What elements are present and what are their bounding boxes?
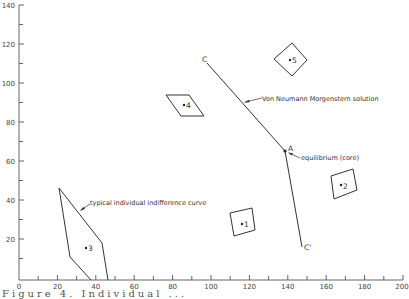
point-2-marker — [340, 184, 342, 186]
y-tick-label: 60 — [6, 158, 15, 166]
y-tick-label: 140 — [2, 2, 15, 10]
point-5-marker — [289, 59, 291, 61]
vnm-label: Von Neumann Morgenstern solution — [262, 95, 379, 103]
y-tick-label: 100 — [2, 80, 15, 88]
vnm-arrowhead-icon — [244, 100, 250, 103]
axes — [19, 5, 403, 280]
core-label: equilibrium (core) — [301, 154, 359, 162]
point-1-label: 1 — [244, 220, 249, 229]
x-tick-label: 180 — [358, 283, 371, 291]
y-tick-label: 120 — [2, 41, 15, 49]
figure-caption: Figure 4. Individual ... — [2, 288, 187, 299]
point-3-label: 3 — [88, 244, 93, 253]
point-4-marker — [183, 104, 185, 106]
point-1-marker — [241, 223, 243, 225]
x-tick-label: 100 — [204, 283, 217, 291]
label-a: A — [288, 144, 294, 153]
y-tick-labels: 140 120 100 80 60 40 20 — [2, 2, 15, 244]
label-c-prime: C' — [304, 243, 311, 252]
point-a-marker — [283, 149, 286, 152]
indiff-label: typical individual indifference curve — [90, 199, 206, 207]
y-tick-label: 40 — [6, 197, 15, 205]
vnm-solution-line — [207, 63, 302, 247]
label-c: C — [202, 55, 207, 64]
point-2-label: 2 — [343, 182, 348, 191]
x-tick-label: 200 — [395, 283, 408, 291]
point-3-marker — [85, 247, 87, 249]
point-5-label: 5 — [292, 56, 297, 65]
y-tick-label: 20 — [6, 236, 15, 244]
x-tick-label: 160 — [320, 283, 333, 291]
y-tick-label: 80 — [6, 119, 15, 127]
x-tick-label: 120 — [243, 283, 256, 291]
indifference-curve-lower — [59, 188, 91, 280]
point-4-label: 4 — [186, 101, 191, 110]
x-tick-label: 140 — [281, 283, 294, 291]
region-1 — [230, 208, 255, 236]
